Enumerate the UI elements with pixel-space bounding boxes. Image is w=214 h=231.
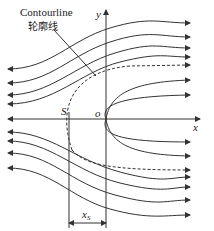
streamline-lower-1 xyxy=(8,132,190,179)
streamline-upper-3 xyxy=(8,46,190,95)
streamline-lower-4 xyxy=(8,168,190,216)
streamline-inner-lower-2 xyxy=(106,119,190,156)
streamline-inner-lower-1 xyxy=(105,119,190,142)
y-axis-label: y xyxy=(95,8,101,20)
streamline-upper-4 xyxy=(8,56,190,104)
contour-label-cn: 轮廓线 xyxy=(28,20,58,32)
origin-label: o xyxy=(95,107,101,119)
streamline-inner-upper-2 xyxy=(105,95,190,119)
contour-lower xyxy=(72,150,190,170)
contour-label-en: Contourline xyxy=(20,6,73,18)
contour-upper xyxy=(67,65,190,150)
x-axis-label: x xyxy=(192,121,198,133)
xs-label: xS xyxy=(81,208,91,222)
streamline-lower-3 xyxy=(8,153,190,202)
flow-diagram: Contourline 轮廓线 y x o S xS xyxy=(0,0,214,231)
point-s-label: S xyxy=(61,105,67,117)
streamline-inner-upper-1 xyxy=(106,80,190,119)
